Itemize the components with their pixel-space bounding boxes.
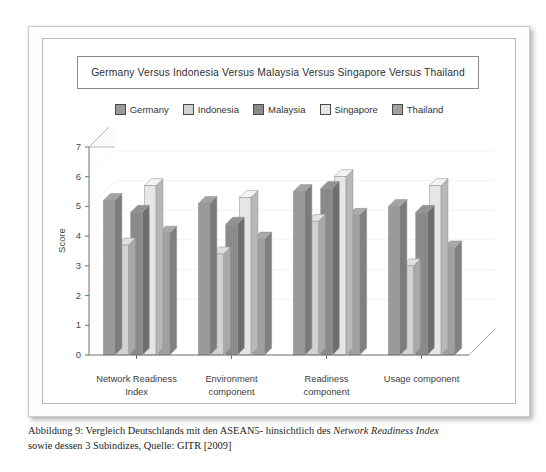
- bar-side-face: [455, 241, 462, 355]
- y-tick-label: 6: [67, 171, 81, 182]
- legend-item-malaysia[interactable]: Malaysia: [253, 104, 306, 115]
- bar-germany-3[interactable]: [388, 199, 407, 355]
- page-title: Germany Versus Indonesia Versus Malaysia…: [91, 67, 465, 78]
- bar-front-face: [388, 206, 400, 355]
- bar-front-face: [198, 203, 210, 355]
- bar-side-face: [224, 247, 231, 355]
- bar-side-face: [346, 170, 353, 355]
- bar-germany-0[interactable]: [103, 193, 122, 355]
- legend-label: Thailand: [407, 104, 443, 115]
- bar-front-face: [293, 192, 305, 355]
- caption-line1-a: Abbildung 9: Vergleich Deutschlands mit …: [28, 425, 333, 436]
- bar-germany-1[interactable]: [198, 196, 217, 355]
- x-tick-label: Usage component: [367, 373, 477, 386]
- bar-side-face: [305, 185, 312, 355]
- scanned-page: Germany Versus Indonesia Versus Malaysia…: [0, 0, 546, 472]
- legend-item-germany[interactable]: Germany: [115, 104, 169, 115]
- bar-side-face: [115, 193, 122, 355]
- legend-label: Singapore: [335, 104, 378, 115]
- legend-label: Indonesia: [198, 104, 239, 115]
- y-tick-label: 7: [67, 141, 81, 152]
- bar-germany-2[interactable]: [293, 185, 312, 355]
- figure-caption: Abbildung 9: Vergleich Deutschlands mit …: [28, 424, 528, 453]
- chart-frame: Germany Versus Indonesia Versus Malaysia…: [42, 38, 516, 404]
- bar-front-face: [103, 200, 115, 355]
- bar-side-face: [156, 179, 163, 355]
- bar-side-face: [170, 226, 177, 355]
- chart-plot-area: Score 01234567 Network ReadinessIndexEnv…: [43, 127, 515, 403]
- caption-line2: sowie dessen 3 Subindizes, Quelle: GITR …: [28, 440, 231, 451]
- bar-side-face: [332, 182, 339, 355]
- gridline-depth: [89, 151, 115, 177]
- bar-side-face: [360, 208, 367, 355]
- chart-legend: GermanyIndonesiaMalaysiaSingaporeThailan…: [43, 101, 515, 117]
- y-tick-label: 0: [67, 349, 81, 360]
- bar-side-face: [237, 217, 244, 355]
- caption-title-italic: Network Readiness Index: [333, 425, 439, 436]
- legend-label: Malaysia: [268, 104, 306, 115]
- legend-item-indonesia[interactable]: Indonesia: [183, 104, 239, 115]
- bar-side-face: [427, 205, 434, 355]
- bar-side-face: [129, 238, 136, 355]
- y-tick-label: 3: [67, 260, 81, 271]
- bar-side-face: [251, 191, 258, 355]
- legend-swatch-icon: [392, 104, 403, 115]
- bar-side-face: [441, 179, 448, 355]
- x-tick-label: Environmentcomponent: [177, 373, 287, 399]
- y-tick-label: 4: [67, 230, 81, 241]
- x-tick-label: Network ReadinessIndex: [82, 373, 192, 399]
- page-sheet: Germany Versus Indonesia Versus Malaysia…: [28, 26, 530, 417]
- bar-side-face: [142, 205, 149, 355]
- legend-item-singapore[interactable]: Singapore: [320, 104, 378, 115]
- bar-side-face: [210, 196, 217, 355]
- legend-swatch-icon: [320, 104, 331, 115]
- legend-label: Germany: [130, 104, 169, 115]
- legend-swatch-icon: [115, 104, 126, 115]
- chart-svg: [43, 127, 515, 403]
- legend-swatch-icon: [253, 104, 264, 115]
- x-tick-label: Readinesscomponent: [272, 373, 382, 399]
- chart-title-box: Germany Versus Indonesia Versus Malaysia…: [77, 56, 479, 89]
- y-tick-label: 1: [67, 319, 81, 330]
- legend-item-thailand[interactable]: Thailand: [392, 104, 443, 115]
- bar-side-face: [319, 214, 326, 355]
- y-axis-label: Score: [56, 211, 67, 271]
- bar-side-face: [414, 259, 421, 355]
- bar-side-face: [265, 232, 272, 355]
- y-tick-label: 5: [67, 200, 81, 211]
- y-tick-label: 2: [67, 290, 81, 301]
- bar-side-face: [400, 199, 407, 355]
- legend-swatch-icon: [183, 104, 194, 115]
